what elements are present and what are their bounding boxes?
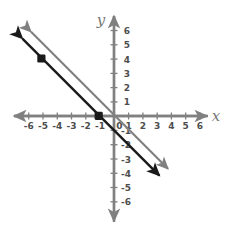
line-gray-y-equals-negative-x xyxy=(31,32,168,169)
y-tick-label: 2 xyxy=(124,83,130,93)
x-tick-label: 3 xyxy=(154,121,160,131)
x-tick-label: 5 xyxy=(183,121,189,131)
x-tick-label: -2 xyxy=(81,121,91,131)
coordinate-plane-graph: -6 -5 -4 -3 -2 -1 0 1 2 3 4 5 6 6 5 4 3 … xyxy=(0,0,229,235)
y-tick-label: 3 xyxy=(124,69,130,79)
x-tick-label: -5 xyxy=(38,121,48,131)
x-tick-label: -4 xyxy=(52,121,62,131)
y-tick-label: -4 xyxy=(121,169,131,179)
y-tick-label: 4 xyxy=(124,55,130,65)
y-tick-label: -5 xyxy=(121,183,131,193)
data-point-marker xyxy=(37,54,45,62)
x-tick-label: -6 xyxy=(24,121,34,131)
y-axis-label: y xyxy=(96,11,106,29)
line-segment-gray xyxy=(31,32,168,169)
y-tick-label: -6 xyxy=(121,197,131,207)
y-tick-label: -3 xyxy=(121,155,131,165)
x-axis-label: x xyxy=(212,107,221,125)
x-tick-label: -1 xyxy=(95,121,105,131)
x-tick-label: 2 xyxy=(140,121,146,131)
y-tick-label: 1 xyxy=(124,97,130,107)
graph-canvas: -6 -5 -4 -3 -2 -1 0 1 2 3 4 5 6 6 5 4 3 … xyxy=(0,0,229,235)
x-tick-label: 4 xyxy=(168,121,174,131)
x-tick-label: -3 xyxy=(67,121,77,131)
x-tick-label: 6 xyxy=(197,121,203,131)
y-tick-label: 6 xyxy=(124,26,130,36)
data-point-marker xyxy=(95,112,103,120)
y-tick-label: 5 xyxy=(124,40,130,50)
